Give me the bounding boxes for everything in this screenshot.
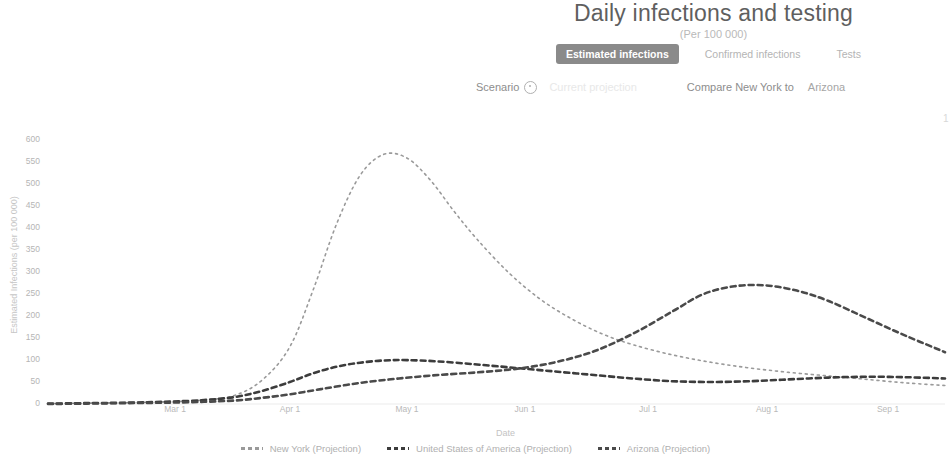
chart-lines xyxy=(0,112,951,422)
chart-plot-area: Estimated Infections (per 100 000) 05010… xyxy=(0,112,951,422)
chart-header: Daily infections and testing (Per 100 00… xyxy=(0,0,951,112)
tab-tests[interactable]: Tests xyxy=(826,44,871,64)
legend-item-new-york[interactable]: New York (Projection) xyxy=(241,443,361,454)
x-axis-title-text: Date xyxy=(496,428,515,438)
x-axis-ticks: Mar 1Apr 1May 1Jun 1Jul 1Aug 1Sep 1 xyxy=(0,404,951,420)
legend-swatch-arizona xyxy=(598,447,620,450)
chart-subtitle: (Per 100 000) xyxy=(476,28,951,40)
x-tick-label: Apr 1 xyxy=(280,404,300,414)
legend-label-arizona: Arizona (Projection) xyxy=(627,443,710,454)
scenario-select[interactable]: Current projection xyxy=(549,81,636,93)
x-tick-label: May 1 xyxy=(395,404,418,414)
legend-label-usa: United States of America (Projection) xyxy=(416,443,572,454)
compare-label: Compare New York to xyxy=(687,81,794,93)
chart-legend: New York (Projection) United States of A… xyxy=(0,443,951,454)
x-axis-title: Date xyxy=(0,428,951,438)
compare-region-select[interactable]: Arizona xyxy=(808,81,845,93)
x-tick-label: Jun 1 xyxy=(515,404,536,414)
page-title: Daily infections and testing xyxy=(476,0,951,27)
x-tick-label: Sep 1 xyxy=(877,404,899,414)
tab-confirmed-infections[interactable]: Confirmed infections xyxy=(695,44,811,64)
x-tick-label: Aug 1 xyxy=(756,404,778,414)
x-tick-label: Mar 1 xyxy=(164,404,186,414)
series-line-usa xyxy=(48,360,945,404)
series-line-arizona xyxy=(48,285,945,404)
x-tick-label: Jul 1 xyxy=(639,404,657,414)
legend-swatch-usa xyxy=(387,447,409,450)
legend-item-arizona[interactable]: Arizona (Projection) xyxy=(598,443,710,454)
title-block: Daily infections and testing (Per 100 00… xyxy=(476,0,951,27)
legend-label-new-york: New York (Projection) xyxy=(270,443,361,454)
legend-item-usa[interactable]: United States of America (Projection) xyxy=(387,443,572,454)
info-circle-icon[interactable] xyxy=(524,81,537,94)
scenario-label: Scenario xyxy=(476,81,519,93)
controls-row: Scenario Current projection Compare New … xyxy=(476,80,951,93)
metric-tab-bar: Estimated infections Confirmed infection… xyxy=(476,44,951,64)
tab-estimated-infections[interactable]: Estimated infections xyxy=(556,44,679,64)
legend-swatch-new-york xyxy=(241,447,263,450)
